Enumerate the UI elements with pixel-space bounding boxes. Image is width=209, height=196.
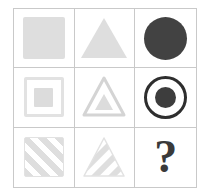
matrix-cell-3-3[interactable]: ? bbox=[135, 128, 196, 187]
shape-triangle-outline-inner bbox=[81, 74, 127, 120]
question-mark-text: ? bbox=[154, 134, 177, 180]
matrix-cell-2-2[interactable] bbox=[75, 68, 136, 127]
square-filled-shape bbox=[23, 17, 65, 59]
matrix-puzzle-grid: ? bbox=[13, 8, 197, 188]
circle-ring-shape bbox=[144, 76, 187, 119]
matrix-cell-3-2[interactable] bbox=[75, 128, 136, 187]
shape-square-outline-inner bbox=[21, 74, 67, 120]
shape-circle-filled bbox=[143, 15, 189, 61]
square-outline-shape bbox=[24, 77, 64, 117]
triangle-outline-shape bbox=[81, 75, 127, 119]
matrix-cell-3-1[interactable] bbox=[14, 128, 75, 187]
square-striped-shape bbox=[24, 137, 64, 177]
triangle-striped-shape bbox=[81, 135, 127, 179]
shape-question-mark: ? bbox=[143, 134, 189, 180]
triangle-filled-shape bbox=[81, 18, 127, 58]
shape-triangle-filled bbox=[81, 15, 127, 61]
shape-circle-ring-inner bbox=[143, 74, 189, 120]
square-inner-shape bbox=[34, 88, 53, 107]
shape-square-striped bbox=[21, 134, 67, 180]
shape-triangle-striped bbox=[81, 134, 127, 180]
matrix-cell-1-3[interactable] bbox=[135, 9, 196, 68]
matrix-cell-1-1[interactable] bbox=[14, 9, 75, 68]
matrix-cell-1-2[interactable] bbox=[75, 9, 136, 68]
circle-filled-shape bbox=[144, 17, 187, 60]
shape-square-filled bbox=[21, 15, 67, 61]
matrix-cell-2-3[interactable] bbox=[135, 68, 196, 127]
matrix-cell-2-1[interactable] bbox=[14, 68, 75, 127]
circle-inner-shape bbox=[155, 87, 176, 108]
